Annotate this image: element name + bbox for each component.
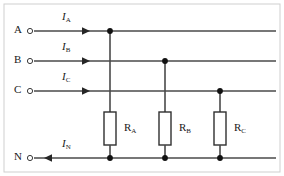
terminal-label-c: C: [14, 84, 21, 95]
junction-dot-b-phase: [162, 58, 168, 64]
resistor-label-rb: RB: [179, 122, 191, 133]
current-label-ic: IC: [62, 71, 70, 82]
resistor-box-b: [159, 112, 171, 145]
resistor-box-c: [214, 112, 226, 145]
junction-dot-c-phase: [217, 88, 223, 94]
terminal-label-a: A: [14, 24, 22, 35]
terminal-node-a: [27, 28, 32, 33]
current-arrow-c-icon: [82, 87, 90, 95]
current-subscript-ib: B: [66, 46, 71, 54]
terminal-node-b: [27, 58, 32, 63]
junction-dot-a-neutral: [107, 155, 113, 161]
current-label-in: IN: [62, 138, 71, 149]
current-arrow-n-icon: [44, 154, 52, 162]
current-arrow-b-icon: [82, 57, 90, 65]
circuit-diagram-figure: A B C N IA IB IC IN RA RB RC: [0, 0, 284, 176]
figure-border: [4, 4, 280, 172]
junction-dot-c-neutral: [217, 155, 223, 161]
current-subscript-in: N: [66, 143, 71, 151]
terminal-label-b: B: [14, 54, 21, 65]
resistor-label-ra: RA: [124, 122, 136, 133]
current-label-ib: IB: [62, 41, 70, 52]
resistor-label-rc: RC: [234, 122, 246, 133]
current-label-ia: IA: [62, 11, 71, 22]
current-subscript-ic: C: [66, 76, 71, 84]
resistor-subscript-rb: B: [186, 127, 191, 135]
terminal-node-n: [27, 155, 32, 160]
resistor-box-a: [104, 112, 116, 145]
circuit-schematic-canvas: [0, 0, 284, 176]
terminal-label-n: N: [14, 151, 22, 162]
junction-dot-b-neutral: [162, 155, 168, 161]
resistor-subscript-ra: A: [131, 127, 136, 135]
resistor-subscript-rc: C: [241, 127, 246, 135]
current-subscript-ia: A: [66, 16, 71, 24]
terminal-node-c: [27, 88, 32, 93]
junction-dot-a-phase: [107, 28, 113, 34]
current-arrow-a-icon: [82, 27, 90, 35]
